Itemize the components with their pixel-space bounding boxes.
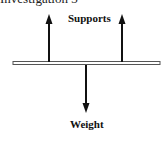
left-support-arrow-icon — [46, 14, 53, 62]
right-support-arrow-icon — [119, 14, 126, 62]
weight-arrow-icon — [83, 65, 90, 113]
weight-label: Weight — [70, 118, 104, 130]
beam — [13, 62, 160, 65]
supports-label: Supports — [68, 12, 111, 24]
